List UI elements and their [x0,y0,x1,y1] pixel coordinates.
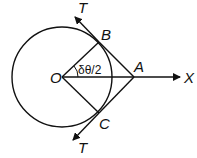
label-t-bottom: T [78,139,89,156]
label-c: C [99,115,110,132]
label-x: X [183,69,195,86]
label-t-top: T [78,0,89,16]
radius-oc [62,77,99,113]
segment-ca [99,77,134,113]
label-a: A [133,58,144,75]
tangent-bottom [73,113,99,140]
label-o: O [50,69,62,86]
geometry-diagram: O A B C X T T δθ/2 [0,0,197,158]
segment-ba [99,42,134,77]
label-b: B [101,26,111,43]
label-angle: δθ/2 [78,63,102,77]
